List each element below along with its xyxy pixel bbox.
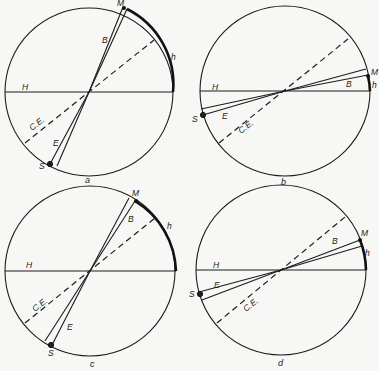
moon-marker	[134, 199, 138, 203]
moon-marker	[366, 74, 370, 78]
label-h: h	[171, 52, 176, 62]
ray-to-moon-2	[90, 201, 135, 271]
sun-marker	[197, 291, 202, 296]
label-h: h	[365, 248, 370, 258]
panel-a: M h B H C.E. E S a	[5, 0, 176, 185]
ray-to-sun-1	[199, 270, 281, 292]
sun-marker	[48, 342, 53, 347]
ray-to-moon-2	[285, 75, 368, 91]
ecliptic-arc-h	[368, 76, 370, 91]
label-sun: S	[192, 114, 198, 124]
ray-to-moon-1	[90, 198, 129, 271]
label-ce: C.E.	[241, 296, 260, 314]
sun-marker	[47, 161, 52, 166]
label-h: h	[372, 80, 377, 90]
ray-to-moon-1	[281, 240, 360, 270]
label-epsilon: E	[222, 111, 228, 121]
label-sun: S	[189, 289, 195, 299]
ray-to-sun-1	[201, 91, 285, 109]
panel-caption: d	[278, 358, 284, 368]
label-moon: M	[361, 228, 369, 238]
label-sun: S	[48, 348, 54, 358]
label-horizon: H	[22, 82, 29, 92]
label-moon: M	[117, 0, 125, 8]
panel-c: M h B H C.E. E S c	[5, 186, 176, 369]
ray-to-sun-1	[50, 92, 89, 164]
label-horizon: H	[213, 260, 220, 270]
sun-marker	[200, 112, 205, 117]
panel-d: M h B H C.E. E S d	[189, 185, 370, 368]
label-epsilon: E	[214, 280, 220, 290]
four-panel-diagram: M h B H C.E. E S a M h B H C.E. E S b	[0, 0, 379, 371]
label-h: h	[167, 221, 172, 231]
label-epsilon: E	[67, 322, 73, 332]
label-horizon: H	[26, 260, 33, 270]
label-moon: M	[371, 67, 379, 77]
label-epsilon: E	[53, 138, 59, 148]
label-beta: B	[332, 236, 338, 246]
label-moon: M	[132, 188, 140, 198]
ray-to-sun-2	[203, 91, 285, 115]
label-ce: C.E.	[30, 296, 49, 314]
label-beta: B	[102, 35, 108, 45]
ray-to-sun-2	[57, 92, 89, 166]
moon-marker	[358, 238, 362, 242]
label-horizon: H	[212, 82, 219, 92]
panel-caption: a	[85, 175, 90, 185]
ray-to-sun-2	[52, 271, 90, 345]
panel-caption: c	[90, 359, 95, 369]
label-beta: B	[128, 214, 134, 224]
panel-b: M h B H C.E. E S b	[192, 6, 379, 187]
ecliptic-arc-h	[135, 201, 176, 271]
ray-to-moon-2	[281, 246, 362, 270]
label-sun: S	[39, 161, 45, 171]
ray-to-moon-1	[89, 7, 123, 92]
ray-to-moon-2	[89, 9, 127, 92]
label-ce: C.E.	[236, 118, 255, 136]
label-ce: C.E.	[27, 115, 46, 133]
label-beta: B	[346, 79, 352, 89]
